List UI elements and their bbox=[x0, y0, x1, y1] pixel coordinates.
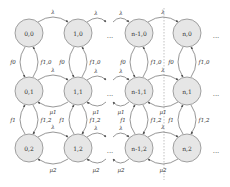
svg-text:1,1: 1,1 bbox=[73, 88, 83, 95]
svg-text:μ1: μ1 bbox=[117, 109, 124, 116]
svg-text:f1: f1 bbox=[167, 117, 174, 124]
node-n-0: n,0 bbox=[173, 19, 201, 47]
svg-text:λ: λ bbox=[50, 9, 55, 15]
svg-text:f1,2: f1,2 bbox=[40, 117, 52, 124]
node-n-2: n,2 bbox=[173, 134, 201, 162]
node-1-2: 1,2 bbox=[64, 134, 92, 162]
node-n-1-2: n-1,2 bbox=[125, 134, 153, 162]
svg-text:f1,0: f1,0 bbox=[198, 59, 210, 66]
node-0-2: 0,2 bbox=[15, 134, 43, 162]
svg-text:λ: λ bbox=[160, 124, 165, 130]
svg-text:λ: λ bbox=[93, 125, 98, 131]
svg-text:f1,2: f1,2 bbox=[89, 117, 101, 124]
svg-text:λ: λ bbox=[160, 9, 165, 15]
svg-text:μ2: μ2 bbox=[117, 167, 125, 174]
svg-text:...: ... bbox=[107, 147, 114, 155]
svg-text:λ: λ bbox=[160, 67, 165, 73]
svg-text:n-1,2: n-1,2 bbox=[131, 145, 147, 152]
svg-text:f1,2: f1,2 bbox=[198, 117, 210, 124]
svg-text:f1: f1 bbox=[9, 117, 16, 124]
svg-text:...: ... bbox=[213, 90, 220, 98]
svg-text:μ1: μ1 bbox=[92, 109, 99, 116]
svg-text:μ1: μ1 bbox=[159, 109, 166, 116]
svg-text:1,2: 1,2 bbox=[73, 145, 83, 152]
node-0-1: 0,1 bbox=[15, 77, 43, 105]
node-1-1: 1,1 bbox=[64, 77, 92, 105]
svg-text:n,0: n,0 bbox=[182, 30, 192, 37]
svg-text:f0: f0 bbox=[58, 59, 65, 66]
svg-text:n-1,0: n-1,0 bbox=[131, 30, 147, 37]
node-1-0: 1,0 bbox=[64, 19, 92, 47]
svg-text:f0: f0 bbox=[119, 59, 126, 66]
node-n-1-0: n-1,0 bbox=[125, 19, 153, 47]
svg-text:μ2: μ2 bbox=[49, 167, 57, 174]
node-n-1-1: n-1,1 bbox=[125, 77, 153, 105]
svg-text:λ: λ bbox=[93, 68, 98, 74]
svg-text:μ2: μ2 bbox=[92, 167, 100, 174]
svg-text:f0: f0 bbox=[9, 59, 16, 66]
svg-text:λ: λ bbox=[118, 10, 123, 16]
svg-text:f1: f1 bbox=[58, 117, 65, 124]
svg-text:μ2: μ2 bbox=[159, 167, 167, 174]
svg-text:n-1,1: n-1,1 bbox=[131, 88, 146, 95]
svg-text:f1,0: f1,0 bbox=[150, 59, 162, 66]
svg-text:f1: f1 bbox=[119, 117, 126, 124]
node-n-1: n,1 bbox=[173, 77, 201, 105]
svg-text:λ: λ bbox=[50, 67, 55, 73]
svg-text:f1,0: f1,0 bbox=[40, 59, 52, 66]
svg-text:0,2: 0,2 bbox=[24, 145, 34, 152]
svg-text:...: ... bbox=[213, 147, 220, 155]
node-0-0: 0,0 bbox=[15, 19, 43, 47]
svg-text:...: ... bbox=[107, 32, 114, 40]
svg-text:λ: λ bbox=[118, 125, 123, 131]
svg-text:μ1: μ1 bbox=[49, 109, 56, 116]
svg-text:f1,2: f1,2 bbox=[150, 117, 162, 124]
svg-text:f0: f0 bbox=[167, 59, 174, 66]
svg-text:n,1: n,1 bbox=[182, 88, 192, 95]
svg-text:n,2: n,2 bbox=[182, 145, 192, 152]
svg-text:1,0: 1,0 bbox=[73, 30, 83, 37]
svg-text:λ: λ bbox=[93, 10, 98, 16]
svg-text:λ: λ bbox=[118, 68, 123, 74]
ellipsis-markers: ... ... ... ... ... ... bbox=[107, 32, 220, 155]
svg-text:f1,0: f1,0 bbox=[89, 59, 101, 66]
svg-text:λ: λ bbox=[50, 124, 55, 130]
markov-chain-diagram: 0,0 1,0 n-1,0 n,0 0,1 1,1 n-1,1 n,1 0,2 … bbox=[0, 0, 230, 187]
svg-text:...: ... bbox=[213, 32, 220, 40]
svg-text:...: ... bbox=[107, 90, 114, 98]
svg-text:0,1: 0,1 bbox=[24, 88, 34, 95]
svg-text:0,0: 0,0 bbox=[24, 30, 34, 37]
